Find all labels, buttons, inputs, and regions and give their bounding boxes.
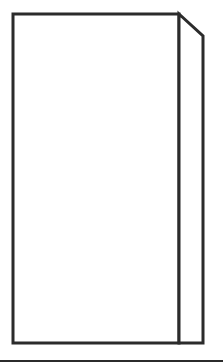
box-side-face	[179, 14, 203, 343]
box-diagram	[0, 0, 223, 364]
box-front-face	[13, 14, 179, 343]
